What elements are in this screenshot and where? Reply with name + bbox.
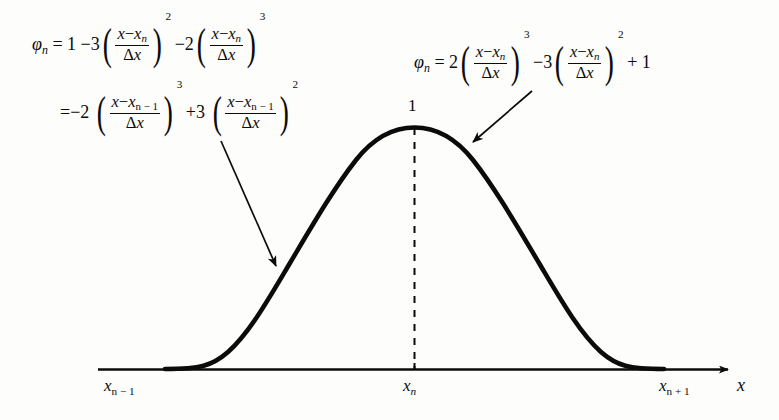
num-x: x — [227, 92, 234, 111]
coefficient-2: 2 — [80, 102, 89, 122]
numerator: x−xn — [568, 44, 602, 63]
term-one: 1 — [67, 34, 76, 54]
right-annotation-arrow — [473, 91, 532, 142]
phi-symbol: φ — [414, 52, 424, 72]
left-paren: ( — [212, 91, 221, 135]
den-delta: Δ — [126, 113, 137, 132]
den-x: x — [228, 45, 235, 64]
bracketed-term-2: (x−xn − 1Δx)2 — [210, 92, 298, 136]
left-paren: ( — [103, 23, 112, 67]
numerator: x−xn − 1 — [110, 94, 161, 113]
fraction: x−xnΔx — [565, 44, 605, 82]
phi-subscript: n — [42, 43, 48, 57]
num-x: x — [212, 24, 219, 43]
coefficient-3: 3 — [91, 34, 100, 54]
left-annotation-arrow — [221, 141, 276, 266]
coefficient-2: 2 — [449, 52, 458, 72]
den-x: x — [136, 113, 143, 132]
numerator: x−xn — [210, 26, 244, 45]
tick-subscript: n — [411, 385, 417, 397]
constant-one: 1 — [642, 52, 651, 72]
equation-right: φn = 2(x−xnΔx)3 −3(x−xnΔx)2 + 1 — [414, 42, 651, 86]
num-xn-sub: n — [594, 51, 599, 63]
num-xn-sub: n — [236, 33, 241, 45]
right-paren: ) — [247, 23, 256, 67]
den-delta: Δ — [217, 45, 228, 64]
fraction: x−xn − 1Δx — [107, 94, 164, 132]
tick-base: x — [403, 376, 411, 395]
denominator: Δx — [474, 63, 508, 82]
num-minus: − — [119, 92, 128, 111]
right-paren: ) — [511, 41, 520, 85]
bracketed-term-1: (x−xnΔx)2 — [100, 24, 170, 68]
bracketed-term-2: (x−xnΔx)2 — [552, 42, 622, 86]
bracketed-term-2: (x−xnΔx)3 — [194, 24, 264, 68]
figure-canvas: φn = 1 −3(x−xnΔx)2 −2(x−xnΔx)3 =−2 (x−xn… — [0, 0, 779, 420]
coefficient-3: 3 — [196, 102, 205, 122]
equals-sign: = — [52, 34, 62, 54]
exponent: 3 — [177, 79, 183, 90]
tick-base: x — [104, 376, 112, 395]
coefficient-2: 2 — [185, 34, 194, 54]
num-minus: − — [219, 24, 228, 43]
phi-symbol: φ — [32, 34, 42, 54]
num-minus: − — [235, 92, 244, 111]
right-paren: ) — [280, 91, 289, 135]
plus-sign: + — [186, 102, 196, 122]
left-paren: ( — [555, 41, 564, 85]
exponent: 3 — [524, 29, 530, 40]
left-paren: ( — [197, 23, 206, 67]
tick-subscript: n − 1 — [112, 385, 135, 397]
right-paren: ) — [153, 23, 162, 67]
num-xn-sub: n — [141, 33, 146, 45]
fraction: x−xnΔx — [112, 26, 152, 64]
minus-sign: − — [533, 52, 543, 72]
numerator: x−xn — [474, 44, 508, 63]
tick-base: x — [659, 376, 667, 395]
coefficient-3: 3 — [543, 52, 552, 72]
left-paren: ( — [461, 41, 470, 85]
exponent: 2 — [166, 11, 172, 22]
num-minus: − — [125, 24, 134, 43]
denominator: Δx — [568, 63, 602, 82]
num-x: x — [117, 24, 124, 43]
den-delta: Δ — [576, 63, 587, 82]
equation-left-line-2: =−2 (x−xn − 1Δx)3 +3 (x−xn − 1Δx)2 — [60, 92, 297, 136]
den-delta: Δ — [482, 63, 493, 82]
right-paren: ) — [164, 91, 173, 135]
num-xn: x — [128, 92, 135, 111]
numerator: x−xn − 1 — [225, 94, 276, 113]
tick-subscript: n + 1 — [667, 385, 690, 397]
equals-sign: = — [434, 52, 444, 72]
den-x: x — [134, 45, 141, 64]
minus-sign-1: − — [81, 34, 91, 54]
numerator: x−xn — [115, 26, 149, 45]
num-xn: x — [228, 24, 235, 43]
exponent: 3 — [260, 11, 266, 22]
num-xn-sub: n — [500, 51, 505, 63]
den-x: x — [492, 63, 499, 82]
exponent: 2 — [618, 29, 624, 40]
num-xn: x — [587, 42, 594, 61]
peak-value-label: 1 — [408, 96, 417, 116]
num-xn: x — [492, 42, 499, 61]
den-delta: Δ — [123, 45, 134, 64]
tick-label-x-n-minus-1: xn − 1 — [104, 376, 135, 397]
den-x: x — [252, 113, 259, 132]
equation-left-line-1: φn = 1 −3(x−xnΔx)2 −2(x−xnΔx)3 — [32, 24, 264, 68]
fraction: x−xnΔx — [207, 26, 247, 64]
left-paren: ( — [97, 91, 106, 135]
phi-subscript: n — [424, 61, 430, 75]
num-x: x — [476, 42, 483, 61]
num-xn-sub: n − 1 — [136, 101, 159, 113]
exponent: 2 — [292, 79, 298, 90]
num-xn-sub: n − 1 — [251, 101, 274, 113]
num-minus: − — [577, 42, 586, 61]
denominator: Δx — [210, 45, 244, 64]
plus-sign: + — [627, 52, 637, 72]
num-x: x — [112, 92, 119, 111]
bracketed-term-1: (x−xnΔx)3 — [458, 42, 528, 86]
denominator: Δx — [110, 113, 161, 132]
minus-sign-2: − — [175, 34, 185, 54]
bracketed-term-1: (x−xn − 1Δx)3 — [94, 92, 182, 136]
